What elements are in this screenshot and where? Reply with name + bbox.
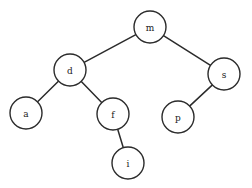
tree-edge-m-s [163,35,211,65]
tree-edge-f-i [118,129,124,148]
tree-edge-d-a [37,81,59,102]
tree-node-f[interactable]: f [97,98,129,130]
tree-edge-s-p [189,85,212,107]
node-label-s: s [222,70,227,80]
node-label-p: p [175,113,181,123]
node-label-d: d [67,66,73,76]
tree-node-i[interactable]: i [112,147,144,179]
binary-search-tree-diagram: mdsafpi [0,0,252,188]
tree-edge-m-d [84,34,137,62]
diagram-canvas: mdsafpi [0,0,252,188]
node-label-a: a [23,109,29,119]
tree-node-d[interactable]: d [54,54,86,86]
node-label-i: i [127,159,130,169]
tree-node-p[interactable]: p [162,101,194,133]
node-label-m: m [146,23,155,33]
tree-edge-d-f [81,81,102,103]
tree-node-m[interactable]: m [134,11,166,43]
tree-node-s[interactable]: s [208,58,240,90]
tree-node-a[interactable]: a [10,97,42,129]
